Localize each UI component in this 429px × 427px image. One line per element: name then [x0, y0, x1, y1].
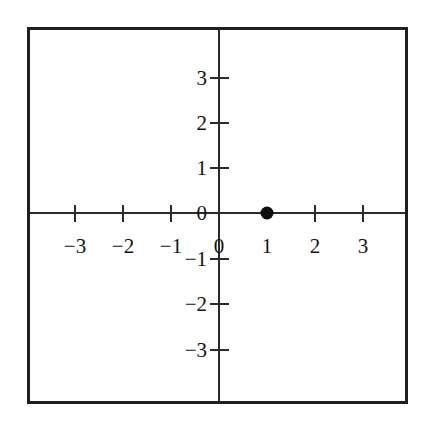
- y-axis-line: [218, 30, 220, 401]
- x-label-0: 0: [214, 236, 225, 257]
- y-tick-3: [210, 77, 229, 79]
- plotted-point: [261, 207, 274, 220]
- x-label-neg2: −2: [112, 236, 134, 257]
- y-label-1: 1: [197, 158, 208, 179]
- x-tick-3: [362, 205, 364, 222]
- y-label-neg2: −2: [185, 294, 207, 315]
- y-label-neg1: −1: [185, 249, 207, 270]
- x-label-3: 3: [358, 236, 369, 257]
- y-label-2: 2: [197, 113, 208, 134]
- x-tick-neg1: [170, 205, 172, 222]
- y-tick-neg3: [210, 349, 229, 351]
- x-label-2: 2: [310, 236, 321, 257]
- y-tick-neg1: [210, 258, 229, 260]
- y-tick-neg2: [210, 303, 229, 305]
- y-tick-1: [210, 167, 229, 169]
- coordinate-plane-figure: −3−2−10123 3210−1−2−3: [0, 0, 429, 427]
- y-label-0: 0: [197, 203, 208, 224]
- y-label-neg3: −3: [185, 340, 207, 361]
- y-tick-2: [210, 122, 229, 124]
- x-tick-neg3: [74, 205, 76, 222]
- x-label-neg1: −1: [160, 236, 182, 257]
- x-label-1: 1: [262, 236, 273, 257]
- x-tick-2: [314, 205, 316, 222]
- y-label-3: 3: [197, 68, 208, 89]
- x-tick-neg2: [122, 205, 124, 222]
- x-label-neg3: −3: [64, 236, 86, 257]
